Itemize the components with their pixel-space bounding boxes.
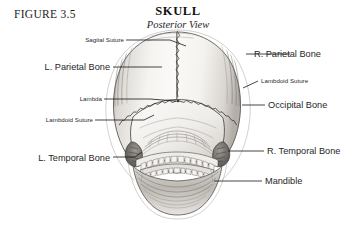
label-lambda[interactable]: Lambda [80, 95, 103, 102]
skull-figure: FIGURE 3.5 SKULL Posterior View [0, 0, 353, 225]
figure-number-label: FIGURE 3.5 [14, 8, 76, 20]
label-left-temporal-bone[interactable]: L. Temporal Bone [38, 153, 110, 163]
label-lambdoid-suture-left[interactable]: Lambdoid Suture [46, 116, 94, 123]
skull-illustration [106, 30, 250, 219]
label-mandible[interactable]: Mandible [265, 176, 302, 186]
label-sagital-suture[interactable]: Sagital Suture [85, 36, 124, 43]
label-lambdoid-suture-right[interactable]: Lambdoid Suture [261, 77, 309, 84]
figure-subtitle: Posterior View [146, 19, 210, 30]
label-right-parietal-bone[interactable]: R. Parietal Bone [254, 49, 321, 59]
label-occipital-bone[interactable]: Occipital Bone [268, 100, 327, 110]
figure-page: FIGURE 3.5 SKULL Posterior View [0, 0, 353, 225]
figure-title: SKULL [155, 4, 200, 18]
leader-lambdoid-suture-right [243, 81, 258, 88]
label-right-temporal-bone[interactable]: R. Temporal Bone [267, 146, 340, 156]
label-left-parietal-bone[interactable]: L. Parietal Bone [45, 62, 110, 72]
